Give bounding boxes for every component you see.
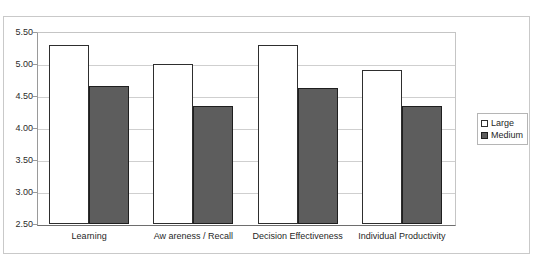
bar-medium <box>402 106 442 224</box>
bar-group <box>141 32 245 224</box>
y-axis-tick-label: 2.50 <box>15 219 33 229</box>
y-axis-tick-label: 4.50 <box>15 91 33 101</box>
y-axis-tick-label: 4.00 <box>15 123 33 133</box>
y-axis-tick-label: 3.00 <box>15 187 33 197</box>
bar-group <box>246 32 350 224</box>
bar-large <box>153 64 193 224</box>
legend-swatch-icon <box>481 120 488 127</box>
bar-medium <box>193 106 233 224</box>
bar-large <box>258 45 298 224</box>
y-axis-tick-label: 5.00 <box>15 59 33 69</box>
legend-label: Medium <box>491 130 523 141</box>
bar-medium <box>89 86 129 224</box>
bar-medium <box>298 88 338 224</box>
chart-legend: LargeMedium <box>477 113 528 145</box>
y-axis: 5.505.004.504.003.503.002.50 <box>0 32 33 224</box>
legend-label: Large <box>491 118 514 129</box>
x-axis-category-label: Decision Effectiveness <box>252 231 342 241</box>
y-axis-tick-label: 3.50 <box>15 155 33 165</box>
x-axis-labels: LearningAw areness / RecallDecision Effe… <box>37 231 454 247</box>
bar-large <box>362 70 402 224</box>
bar-large <box>49 45 89 224</box>
bars-layer <box>37 32 454 224</box>
legend-item-medium[interactable]: Medium <box>481 129 523 141</box>
y-axis-tick-label: 5.50 <box>15 27 33 37</box>
chart-figure: 5.505.004.504.003.503.002.50 LearningAw … <box>0 0 534 260</box>
legend-swatch-icon <box>481 132 488 139</box>
x-axis-category-label: Learning <box>72 231 107 241</box>
x-axis-category-label: Individual Productivity <box>358 231 445 241</box>
bar-group <box>350 32 454 224</box>
x-axis-category-label: Aw areness / Recall <box>154 231 233 241</box>
bar-group <box>37 32 141 224</box>
legend-item-large[interactable]: Large <box>481 117 523 129</box>
